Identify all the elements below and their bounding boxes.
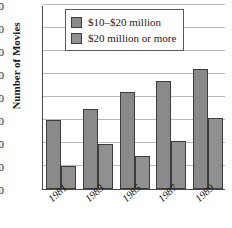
bar [156,81,171,189]
legend-swatch-icon [71,33,82,44]
bar [120,92,135,189]
legend-item: $10–$20 million [71,14,176,30]
bar [98,144,113,189]
bar [171,141,186,189]
y-axis-tick: 70 [0,24,4,35]
bar-group [193,6,223,189]
bar-chart: Number of Movies 01020304050607080 19811… [0,0,232,228]
legend-item: $20 million or more [71,30,176,46]
y-axis-tick: 10 [0,162,4,173]
y-axis-tick: 40 [0,93,4,104]
legend-item-label: $20 million or more [88,33,176,44]
bar [193,69,208,189]
legend-item-label: $10–$20 million [88,17,161,28]
y-axis-tick: 80 [0,1,4,12]
y-axis-tick: 30 [0,116,4,127]
bar [208,118,223,189]
y-axis-tick: 50 [0,70,4,81]
y-axis-tick: 0 [0,185,4,196]
chart-legend: $10–$20 million $20 million or more [65,9,184,51]
gridline [43,4,225,5]
bar [46,120,61,189]
bar [83,109,98,190]
legend-swatch-icon [71,17,82,28]
y-axis-tick: 60 [0,47,4,58]
y-axis-tick: 20 [0,139,4,150]
